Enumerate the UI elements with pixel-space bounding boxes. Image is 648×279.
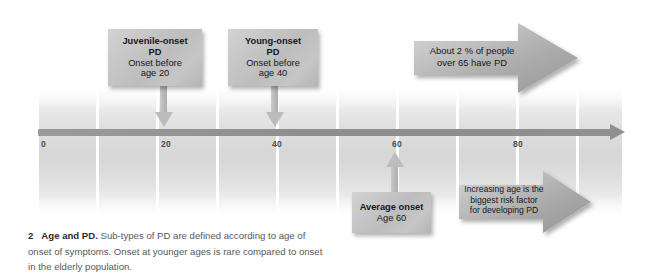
figure-number: 2	[28, 230, 33, 241]
callout-average-onset: Average onset Age 60	[352, 192, 431, 233]
juvenile-onset-stem	[160, 86, 167, 112]
callout-young-onset-line4: age 40	[259, 68, 287, 79]
callout-young-onset: Young-onset PD Onset before age 40	[228, 29, 318, 86]
callout-average-onset-line1: Average onset	[360, 202, 424, 213]
tick-label-80: 80	[513, 139, 523, 149]
callout-young-onset-line2: PD	[267, 47, 280, 58]
timeline-axis	[38, 129, 615, 136]
tick-label-0: 0	[41, 139, 46, 149]
young-onset-stem	[271, 86, 278, 112]
figure-caption: 2 Age and PD. Sub-types of PD are define…	[28, 228, 328, 275]
average-onset-arrowhead-icon	[386, 152, 404, 167]
average-onset-stem	[391, 167, 398, 194]
block-arrow-prevalence-over-65-label: About 2 % of people over 65 have PD	[420, 45, 524, 69]
timeline-axis-arrowhead-icon	[610, 124, 625, 140]
tick-label-40: 40	[272, 139, 282, 149]
callout-juvenile-onset-line4: age 20	[141, 68, 169, 79]
callout-juvenile-onset-line3: Onset before	[128, 58, 182, 69]
figure-age-and-pd: 0 20 40 60 80 Juvenile-onset PD Onset be…	[0, 0, 648, 279]
callout-average-onset-line2: Age 60	[377, 213, 406, 224]
callout-young-onset-line3: Onset before	[246, 58, 300, 69]
callout-juvenile-onset: Juvenile-onset PD Onset before age 20	[108, 29, 202, 86]
block-arrow-prevalence-over-65: About 2 % of people over 65 have PD	[414, 23, 578, 93]
young-onset-arrowhead-icon	[266, 112, 284, 127]
callout-juvenile-onset-line1: Juvenile-onset	[122, 36, 187, 47]
juvenile-onset-arrowhead-icon	[155, 112, 173, 127]
callout-young-onset-line1: Young-onset	[245, 36, 301, 47]
figure-title: Age and PD.	[41, 230, 98, 241]
block-arrow-increasing-age-risk-label: Increasing age is the biggest risk facto…	[461, 184, 547, 216]
callout-juvenile-onset-line2: PD	[149, 47, 162, 58]
tick-label-60: 60	[392, 139, 402, 149]
tick-label-20: 20	[161, 139, 171, 149]
block-arrow-increasing-age-risk: Increasing age is the biggest risk facto…	[459, 171, 591, 233]
